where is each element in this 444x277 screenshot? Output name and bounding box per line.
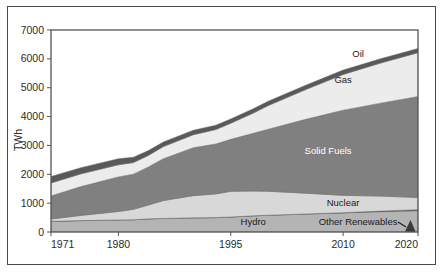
x-tick-label: 1995 [219,238,243,250]
y-tick-label: 7000 [21,24,45,36]
y-axis-title: TWh [12,129,24,151]
x-tick-label: 1971 [51,238,75,250]
y-tick-label: 3000 [21,139,45,151]
x-tick-label: 2020 [395,238,419,250]
series-label-hydro: Hydro [241,216,266,227]
y-tick-label: 4000 [21,110,45,122]
series-label-solid-fuels: Solid Fuels [305,145,352,156]
x-tick-label: 2010 [331,238,355,250]
x-tick-label: 1980 [107,238,131,250]
series-label-gas: Gas [334,74,352,85]
series-label-nuclear: Nuclear [327,197,360,208]
series-label-oil: Oil [352,48,364,59]
y-tick-label: 1000 [21,197,45,209]
y-tick-label: 6000 [21,52,45,64]
x-axis: 19711980199520102020 [51,232,418,250]
y-tick-label: 0 [38,226,44,238]
y-tick-label: 5000 [21,81,45,93]
series-label-other-renewables: Other Renewables [319,216,398,227]
y-tick-label: 2000 [21,168,45,180]
y-axis: 01000200030004000500060007000 [21,24,51,238]
stacked-area-chart: 01000200030004000500060007000 1971198019… [0,0,444,277]
chart-figure: 01000200030004000500060007000 1971198019… [0,0,444,277]
